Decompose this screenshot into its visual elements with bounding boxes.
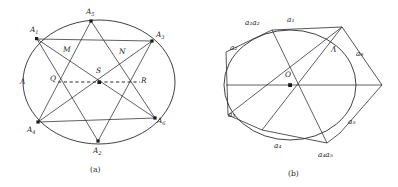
figure-root: A1 A5 A3 A6 A2 A4 M N Q S R Λ (a) <box>0 0 398 187</box>
label-b-a4a5: a₄a₅ <box>318 150 333 159</box>
label-b-region-lambda-bar: Λ̄ <box>330 45 336 54</box>
label-b-a4: a₄ <box>274 141 281 150</box>
diagonal-a1a2-a4a5 <box>272 30 327 143</box>
vertex-o <box>288 83 292 87</box>
label-b-a1: a₁ <box>287 15 294 24</box>
diagonal-group-b <box>226 27 382 143</box>
caption-b: (b) <box>288 169 299 178</box>
label-b-a5: a₅ <box>348 117 355 126</box>
label-b-a6: a₆ <box>356 49 363 58</box>
label-b-a1a2: a₁a₂ <box>245 18 260 27</box>
diagonal-a6-a3 <box>262 27 342 130</box>
panel-b-figure: a₁a₂ a₁ a₂ a₃ a₄ a₄a₅ a₅ a₆ Λ̄ O (b) <box>0 0 398 187</box>
label-b-center-o: O <box>285 70 291 79</box>
label-b-a2: a₂ <box>230 43 237 52</box>
label-b-a3: a₃ <box>228 110 235 119</box>
